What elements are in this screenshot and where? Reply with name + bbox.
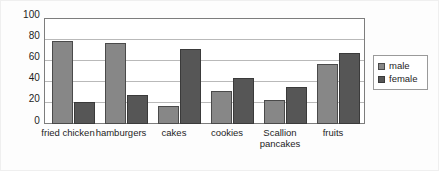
y-axis: 100 80 60 40 20 0 [0,10,40,132]
legend-item-male[interactable]: male [378,60,424,72]
bar-male-cookies[interactable] [211,91,232,124]
bar-chart-screenshot: 100 80 60 40 20 0 [0,0,439,171]
legend-item-female[interactable]: female [378,73,424,85]
bar-female-fried-chicken[interactable] [74,102,95,124]
legend: male female [373,55,428,90]
y-tick-label-80: 80 [0,31,40,41]
x-axis: fried chicken hamburgers cakes cookies S… [20,127,390,167]
legend-swatch-male-icon [378,63,385,70]
y-tick-label-0: 0 [0,116,40,126]
y-tick-label-40: 40 [0,73,40,83]
y-tick-label-60: 60 [0,52,40,62]
bars-layer [44,18,365,124]
y-tick-label-100: 100 [0,10,40,20]
bar-male-fried-chicken[interactable] [52,41,73,124]
bar-female-fruits[interactable] [339,53,360,124]
bar-male-scallion-pancakes[interactable] [264,100,285,124]
bar-female-cakes[interactable] [180,49,201,124]
y-tick-label-20: 20 [0,94,40,104]
bar-male-cakes[interactable] [158,106,179,124]
bar-male-fruits[interactable] [317,64,338,124]
legend-swatch-female-icon [378,76,385,83]
bar-female-hamburgers[interactable] [127,95,148,124]
legend-label-female: female [389,74,418,84]
legend-label-male: male [389,61,410,71]
x-tick-label-fruits: fruits [285,127,381,138]
bar-female-scallion-pancakes[interactable] [286,87,307,124]
bar-male-hamburgers[interactable] [105,43,126,124]
bar-female-cookies[interactable] [233,78,254,124]
